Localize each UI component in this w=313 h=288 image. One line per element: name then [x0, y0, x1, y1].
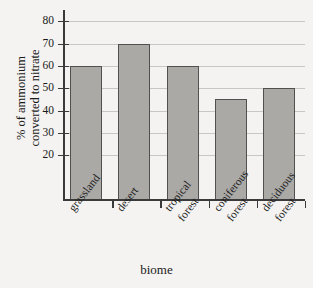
x-axis-tick: [257, 201, 258, 208]
y-axis-line: [63, 10, 65, 201]
y-axis-title-line-2: converted to nitrate: [28, 13, 42, 183]
y-axis-tick: [58, 66, 69, 67]
y-axis-tick: [58, 44, 69, 45]
bar: [118, 44, 150, 200]
plot-area: [64, 10, 305, 200]
y-axis-tick: [58, 111, 69, 112]
y-axis-tick: [58, 133, 69, 134]
gridline: [64, 44, 305, 45]
bar-chart: 20304050607080 grasslanddeserttropicalfo…: [0, 0, 313, 288]
y-axis-title-line-1: % of ammonium: [14, 13, 28, 183]
y-axis-tick: [58, 21, 69, 22]
x-axis-title: biome: [0, 262, 313, 278]
y-axis-tick: [58, 155, 69, 156]
x-axis-tick: [112, 201, 113, 208]
y-axis-title: % of ammonium converted to nitrate: [14, 13, 42, 183]
x-axis-tick: [305, 201, 306, 208]
gridline: [64, 21, 305, 22]
x-axis-tick: [209, 201, 210, 208]
y-axis-tick: [58, 88, 69, 89]
